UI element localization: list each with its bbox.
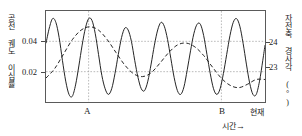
x-label-b: B: [219, 106, 225, 116]
eccentricity-curve: [46, 18, 265, 97]
right-axis-title: 자전축 경사각 (°): [283, 14, 292, 106]
x-label-a: A: [84, 106, 91, 116]
right-tick-label-23: 23: [269, 62, 278, 72]
time-axis-text: 시간: [222, 122, 236, 131]
time-axis-caption: 시간→: [222, 120, 245, 131]
right-tick-label-24: 24: [269, 37, 278, 47]
left-tick-label-0-04: 0.04: [22, 36, 37, 46]
eccentricity-obliquity-figure: 공전 궤도 이심률 자전축 경사각 (°) 0.04 0.02 24 23 A …: [0, 0, 302, 136]
right-tick-mark-23: [266, 67, 270, 68]
right-tick-mark-24: [266, 42, 270, 43]
left-axis-title: 공전 궤도 이심률: [6, 14, 15, 100]
right-arrow-icon: →: [236, 121, 245, 131]
obliquity-curve: [46, 27, 265, 88]
plot-curves: [46, 11, 265, 102]
left-tick-label-0-02: 0.02: [22, 67, 37, 77]
x-label-present: 현재: [250, 106, 264, 117]
plot-area: [45, 10, 266, 103]
